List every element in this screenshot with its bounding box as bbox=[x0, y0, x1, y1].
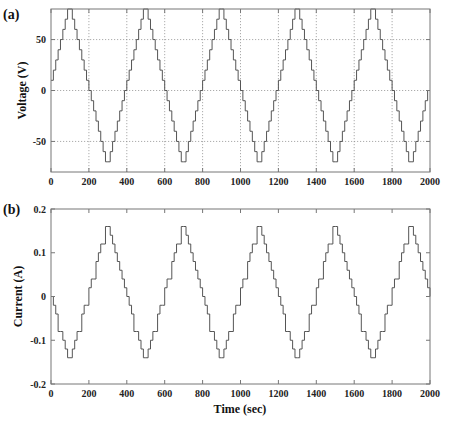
voltage-plot: (a) 500-50 02004006008001000120014001600… bbox=[3, 7, 440, 187]
x-tick-label: 200 bbox=[81, 388, 96, 399]
x-tick-label: 1600 bbox=[344, 388, 364, 399]
y-tick-label: 0 bbox=[41, 291, 46, 302]
x-tick-label: 800 bbox=[195, 388, 210, 399]
y-tick-label: 0 bbox=[41, 85, 46, 96]
x-tick-label: 400 bbox=[119, 388, 134, 399]
x-tick-label: 1200 bbox=[268, 176, 288, 187]
current-y-axis-label: Current (A) bbox=[11, 266, 25, 327]
x-tick-label: 0 bbox=[49, 176, 54, 187]
current-y-ticks: 0.20.10-0.1-0.2 bbox=[30, 204, 430, 390]
x-tick-label: 400 bbox=[119, 176, 134, 187]
x-tick-label: 1800 bbox=[382, 388, 402, 399]
y-tick-label: -0.1 bbox=[30, 335, 46, 346]
x-tick-label: 1600 bbox=[344, 176, 364, 187]
x-tick-label: 1200 bbox=[268, 388, 288, 399]
x-tick-label: 800 bbox=[195, 176, 210, 187]
x-tick-label: 0 bbox=[49, 388, 54, 399]
x-tick-label: 200 bbox=[81, 176, 96, 187]
panel-b-label: (b) bbox=[3, 202, 20, 218]
panel-a-label: (a) bbox=[3, 7, 20, 23]
x-tick-label: 1400 bbox=[306, 388, 326, 399]
y-tick-label: 0.2 bbox=[34, 204, 47, 215]
x-tick-label: 1000 bbox=[231, 388, 251, 399]
y-tick-label: -0.2 bbox=[30, 379, 46, 390]
y-tick-label: 50 bbox=[36, 34, 46, 45]
x-tick-label: 1400 bbox=[306, 176, 326, 187]
voltage-y-axis-label: Voltage (V) bbox=[15, 62, 29, 120]
current-plot: (b) 0.20.10-0.1-0.2 02004006008001000120… bbox=[3, 202, 440, 416]
y-tick-label: 0.1 bbox=[34, 247, 47, 258]
figure: (a) 500-50 02004006008001000120014001600… bbox=[0, 0, 450, 429]
x-axis-label: Time (sec) bbox=[214, 402, 267, 416]
current-trace bbox=[51, 227, 430, 358]
current-x-ticks: 0200400600800100012001400160018002000 bbox=[49, 209, 441, 399]
x-tick-label: 600 bbox=[157, 388, 172, 399]
x-tick-label: 2000 bbox=[420, 388, 440, 399]
x-tick-label: 1000 bbox=[231, 176, 251, 187]
y-tick-label: -50 bbox=[33, 136, 46, 147]
x-tick-label: 1800 bbox=[382, 176, 402, 187]
x-tick-label: 2000 bbox=[420, 176, 440, 187]
x-tick-label: 600 bbox=[157, 176, 172, 187]
voltage-x-ticks: 0200400600800100012001400160018002000 bbox=[49, 9, 441, 187]
